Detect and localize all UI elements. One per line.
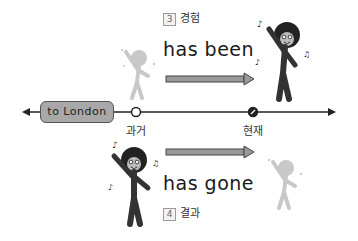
number-box: 3 [163,13,176,26]
dancing-figure-icon: ♪ ♫ ♪ [108,138,168,228]
ghost-figure-icon [265,152,305,210]
has-been-phrase: has been [163,38,254,60]
past-marker-icon [132,108,141,117]
top-arrow-icon [165,72,255,86]
svg-text:♫: ♫ [152,159,159,168]
ghost-figure-icon [118,42,158,100]
experience-label: 경험 [180,12,200,25]
svg-text:♪: ♪ [108,183,113,192]
result-label: 결과 [180,207,200,220]
present-label: 현재 [243,122,263,138]
past-label: 과거 [126,122,146,138]
svg-text:♫: ♫ [303,50,310,59]
svg-text:♪: ♪ [255,58,260,67]
to-london-box: to London [40,101,114,123]
dancing-figure-icon: ♪ ♫ ♪ [255,15,315,103]
has-gone-phrase: has gone [163,172,254,194]
result-heading: 4결과 [163,204,200,221]
svg-text:♪: ♪ [257,19,263,29]
bottom-arrow-icon [165,145,255,159]
experience-heading: 3경험 [163,9,200,26]
svg-text:♪: ♪ [112,140,118,150]
